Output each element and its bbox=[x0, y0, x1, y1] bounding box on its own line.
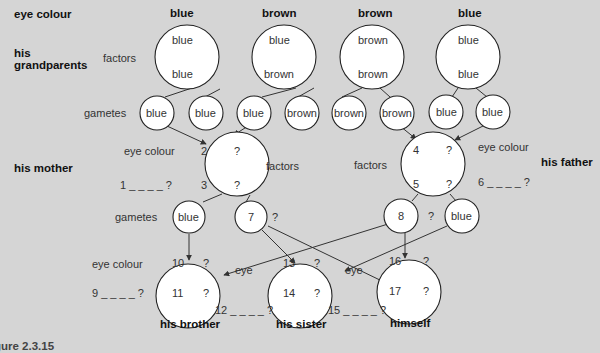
brother-eye-blank: 9 _ _ _ _ ? bbox=[92, 288, 144, 299]
father-factor-bottom-num: 5 bbox=[413, 179, 419, 190]
gp2-factor-bottom: brown bbox=[264, 69, 294, 80]
gp3-eye-colour: brown bbox=[358, 8, 393, 20]
eye-label-right: eye bbox=[345, 265, 363, 276]
gp3-gamete-1: brown bbox=[334, 108, 364, 119]
gp1-factor-bottom: blue bbox=[172, 69, 193, 80]
father-factor-top-num: 4 bbox=[413, 145, 419, 156]
gp2-gamete-1: blue bbox=[243, 108, 264, 119]
himself-circle bbox=[377, 260, 441, 324]
himself-top-val: ? bbox=[423, 256, 429, 267]
mother-factors-label: factors bbox=[266, 161, 299, 172]
eye-colour-row-label: eye colour bbox=[14, 9, 72, 21]
father-eye-colour-label: eye colour bbox=[478, 142, 529, 153]
gp3-factor-top: brown bbox=[358, 35, 388, 46]
sister-name: his sister bbox=[276, 319, 327, 331]
gp1-gamete-2: blue bbox=[195, 108, 216, 119]
mother-eye-colour-blank: 1 _ _ _ _ ? bbox=[120, 180, 172, 191]
gp1-eye-colour: blue bbox=[170, 8, 194, 20]
mother-factor-bottom-num: 3 bbox=[201, 180, 207, 191]
mother-gametes-label: gametes bbox=[115, 212, 157, 223]
himself-eye-blank: 15 _ _ _ _ ? bbox=[328, 305, 386, 316]
gp4-gamete-1: blue bbox=[436, 107, 457, 118]
gp4-factor-bottom: blue bbox=[458, 69, 479, 80]
father-gamete-2-label: blue bbox=[451, 211, 472, 222]
father-gamete-1-label: 8 bbox=[398, 211, 404, 222]
mother-row-label: his mother bbox=[14, 163, 73, 175]
gp3-gamete-2: brown bbox=[382, 108, 412, 119]
gp1-factor-top: blue bbox=[172, 35, 193, 46]
grandparent-gametes-label: gametes bbox=[84, 108, 126, 119]
father-circle bbox=[401, 132, 465, 196]
mother-eye-colour-label: eye colour bbox=[124, 146, 175, 157]
children-eye-colour-label: eye colour bbox=[92, 259, 143, 270]
eye-label-left: eye bbox=[235, 265, 253, 276]
father-factor-bottom-val: ? bbox=[446, 179, 452, 190]
grandparent-factors-label: factors bbox=[103, 53, 136, 64]
brother-bottom-num: 11 bbox=[172, 288, 183, 299]
sister-top-num: 13 bbox=[283, 258, 295, 269]
father-eye-colour-blank: 6 _ _ _ _ ? bbox=[478, 177, 530, 188]
father-factors-label: factors bbox=[354, 160, 387, 171]
mother-factor-top-val: ? bbox=[234, 146, 240, 157]
mother-factor-top-num: 2 bbox=[201, 146, 207, 157]
himself-bottom-num: 17 bbox=[389, 286, 401, 297]
grandparents-label-line1: his bbox=[14, 48, 31, 60]
father-factor-top-val: ? bbox=[446, 145, 452, 156]
gp3-factor-bottom: brown bbox=[358, 69, 388, 80]
gp2-eye-colour: brown bbox=[262, 8, 297, 20]
himself-name: himself bbox=[390, 318, 430, 330]
sister-top-val: ? bbox=[314, 258, 320, 269]
gp4-gamete-2: blue bbox=[482, 107, 503, 118]
brother-name: his brother bbox=[160, 319, 220, 331]
brother-top-num: 10 bbox=[172, 258, 184, 269]
gp2-factor-top: blue bbox=[269, 35, 290, 46]
mother-gamete-1-label: blue bbox=[178, 212, 199, 223]
grandparent-gamete-links bbox=[165, 86, 487, 97]
father-gamete-1-suffix: ? bbox=[428, 211, 434, 222]
father-row-label: his father bbox=[541, 157, 593, 169]
gp2-gamete-2: brown bbox=[287, 108, 317, 119]
brother-bottom-val: ? bbox=[203, 288, 209, 299]
mother-factor-bottom-val: ? bbox=[234, 180, 240, 191]
grandparents-label-line2: grandparents bbox=[14, 60, 88, 72]
himself-top-num: 16 bbox=[389, 256, 401, 267]
gp1-gamete-1: blue bbox=[146, 108, 167, 119]
figure-caption: gure 2.3.15 bbox=[0, 341, 54, 353]
mother-gamete-2-label: 7 bbox=[248, 212, 254, 223]
brother-top-val: ? bbox=[203, 258, 209, 269]
gp4-eye-colour: blue bbox=[458, 8, 482, 20]
gp4-factor-top: blue bbox=[458, 35, 479, 46]
mother-gamete-2-suffix: ? bbox=[272, 212, 278, 223]
sister-bottom-num: 14 bbox=[283, 288, 295, 299]
sister-bottom-val: ? bbox=[314, 288, 320, 299]
grandparent-circles bbox=[155, 25, 500, 89]
sister-eye-blank: 12 _ _ _ _ ? bbox=[215, 305, 273, 316]
himself-bottom-val: ? bbox=[423, 286, 429, 297]
